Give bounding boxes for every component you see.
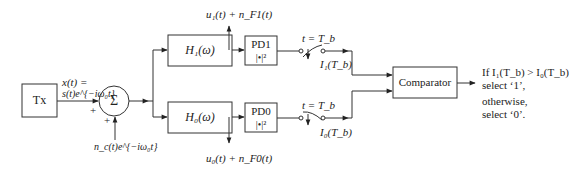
pd0-label: PD0	[245, 105, 277, 118]
pd0-sublabel: |•|²	[245, 118, 277, 131]
decision-line-2: select ‘1’,	[482, 79, 552, 92]
tx-label: Tx	[22, 94, 57, 107]
h0-label: H₀(ω)	[168, 111, 232, 124]
decision-line-1: If I₁(T_b) > I₀(T_b)	[482, 66, 552, 79]
decision-line-3: otherwise,	[482, 95, 552, 108]
signal-label-line1: x(t) =	[62, 76, 87, 88]
tap-upper-label: u₁(t) + n_F1(t)	[206, 8, 272, 20]
h1-label: H₁(ω)	[168, 44, 232, 57]
sample-upper-label: I₁(T_b)	[320, 58, 352, 70]
comparator-label: Comparator	[393, 76, 457, 89]
tap-lower-label: u₀(t) + n_F0(t)	[206, 152, 272, 164]
pd1-label: PD1	[245, 38, 277, 51]
decision-line-4: select ‘0’.	[482, 108, 552, 121]
plus-sign-top: +	[90, 104, 96, 116]
noise-label: n_c(t)e^{−iω₀t}	[94, 141, 157, 153]
switch-lower-label: t = T_b	[302, 99, 335, 111]
plus-sign-bottom: +	[104, 114, 110, 126]
decision-rule: If I₁(T_b) > I₀(T_b) select ‘1’, otherwi…	[482, 66, 552, 121]
sample-lower-label: I₀(T_b)	[320, 126, 352, 138]
signal-label-line2: s(t)e^{−iω₀t}	[62, 88, 115, 100]
pd1-sublabel: |•|²	[245, 51, 277, 64]
switch-upper-label: t = T_b	[302, 32, 335, 44]
